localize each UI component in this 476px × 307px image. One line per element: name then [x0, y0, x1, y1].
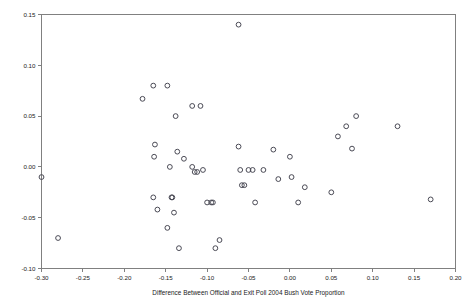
- data-point: [336, 134, 341, 139]
- y-tick-label: 0.00: [23, 163, 36, 170]
- data-point: [172, 210, 177, 215]
- data-point: [190, 104, 195, 109]
- x-axis-ticks: [42, 269, 456, 273]
- data-point: [236, 22, 241, 27]
- data-point: [190, 165, 195, 170]
- data-point: [238, 168, 243, 173]
- data-point: [354, 114, 359, 119]
- x-tick-label: -0.20: [117, 274, 132, 281]
- y-tick-label: 0.05: [23, 112, 36, 119]
- y-tick-label: -0.10: [21, 265, 36, 272]
- x-tick-label: -0.30: [34, 274, 49, 281]
- scatter-chart-figure: -0.30-0.25-0.20-0.15-0.10-0.050.000.050.…: [0, 0, 476, 307]
- data-point: [177, 246, 182, 251]
- data-point: [329, 190, 334, 195]
- data-point: [198, 104, 203, 109]
- y-axis-ticks: [38, 15, 42, 269]
- data-point: [151, 83, 156, 88]
- x-tick-label: -0.05: [241, 274, 256, 281]
- data-point: [261, 168, 266, 173]
- data-point: [213, 246, 218, 251]
- data-point: [271, 147, 276, 152]
- data-point: [253, 200, 258, 205]
- data-point: [165, 83, 170, 88]
- data-point: [151, 195, 156, 200]
- x-tick-label: -0.15: [159, 274, 174, 281]
- data-point: [236, 144, 241, 149]
- y-tick-label: -0.05: [21, 214, 36, 221]
- x-tick-label: 0.20: [449, 274, 462, 281]
- plot-frame: [42, 15, 456, 269]
- data-point: [152, 154, 157, 159]
- data-point: [153, 142, 158, 147]
- x-tick-label: 0.05: [325, 274, 338, 281]
- data-point: [155, 207, 160, 212]
- y-axis-tick-labels: 0.150.100.050.00-0.05-0.10: [21, 11, 36, 272]
- data-point: [350, 146, 355, 151]
- data-point: [296, 200, 301, 205]
- y-tick-label: 0.15: [23, 11, 36, 18]
- data-point: [182, 156, 187, 161]
- data-point: [288, 154, 293, 159]
- x-tick-label: 0.15: [408, 274, 421, 281]
- x-tick-label: 0.10: [367, 274, 380, 281]
- data-point: [140, 96, 145, 101]
- data-point: [56, 236, 61, 241]
- data-point: [344, 124, 349, 129]
- x-axis-tick-labels: -0.30-0.25-0.20-0.15-0.10-0.050.000.050.…: [34, 274, 462, 281]
- data-point: [167, 165, 172, 170]
- data-point: [428, 197, 433, 202]
- x-tick-label: -0.10: [200, 274, 215, 281]
- x-axis-title: Difference Between Official and Exit Pol…: [152, 289, 345, 297]
- data-point: [302, 185, 307, 190]
- y-tick-label: 0.10: [23, 62, 36, 69]
- x-tick-label: -0.25: [76, 274, 91, 281]
- data-point: [175, 149, 180, 154]
- data-point: [217, 238, 222, 243]
- data-point: [395, 124, 400, 129]
- data-point: [201, 168, 206, 173]
- data-point: [276, 177, 281, 182]
- data-point: [173, 114, 178, 119]
- data-point-markers: [39, 22, 433, 250]
- x-tick-label: 0.00: [284, 274, 297, 281]
- data-point: [289, 175, 294, 180]
- plot-canvas: -0.30-0.25-0.20-0.15-0.10-0.050.000.050.…: [0, 0, 476, 307]
- data-point: [165, 225, 170, 230]
